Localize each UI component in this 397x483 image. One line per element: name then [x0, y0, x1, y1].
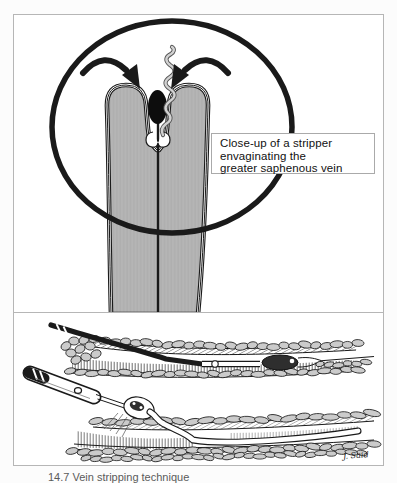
annotation-line-3: greater saphenous vein	[220, 162, 374, 175]
rod-eyelet	[212, 361, 218, 367]
annotation-line-2: envaginating the	[220, 150, 374, 163]
figure-caption-fragment: 14.7 Vein stripping technique	[48, 471, 189, 483]
handle-eye	[75, 388, 82, 394]
annotation-line-1: Close-up of a stripper	[220, 137, 374, 150]
closeup-panel: Close-up of a stripper envaginating the …	[13, 14, 384, 313]
lower-procedure-drawing	[29, 369, 381, 463]
procedure-illustrations	[14, 313, 385, 465]
procedure-panel: J. Said	[13, 312, 384, 466]
annotation-label-box: Close-up of a stripper envaginating the …	[211, 133, 375, 174]
flow-arrows	[83, 60, 228, 89]
artist-signature: J. Said	[343, 450, 369, 461]
upper-procedure-drawing	[51, 324, 374, 379]
stripper-olive-head	[262, 355, 298, 370]
